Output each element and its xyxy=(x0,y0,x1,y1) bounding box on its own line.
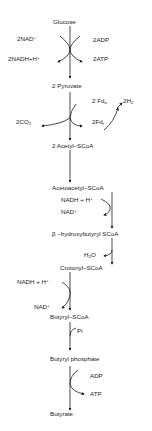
node-butyryl-phosphate: Butyryl phosphate xyxy=(50,355,100,362)
node-glucose: Glucose xyxy=(53,18,76,25)
cofactor-2fd-oxidized: 2 Fdo xyxy=(92,97,107,104)
cofactor-adp: ADP xyxy=(90,372,103,379)
cofactor-atp: ATP xyxy=(90,390,102,397)
cofactor-h2o: H2O xyxy=(84,251,96,258)
cofactor-2atp: 2ATP xyxy=(93,55,108,62)
node-acetyl-scoa: 2 Acetyl–SCoA xyxy=(52,142,93,149)
pathway-arrows xyxy=(0,0,152,431)
node-hydroxybutyryl-scoa: β –hydroxybutyryl SCoA xyxy=(52,230,119,237)
cofactor-nadh-h-plus-2: NADH + H+ xyxy=(17,278,49,285)
node-pyruvate: 2 Pyruvate xyxy=(52,82,82,89)
cofactor-2fd-reduced: 2Fdr xyxy=(92,118,104,125)
cofactor-2nadh: 2NADH+H+ xyxy=(8,55,40,62)
node-butyryl-scoa: Butyryl–SCoA xyxy=(50,313,89,320)
cofactor-2adp: 2ADP xyxy=(93,36,109,43)
cofactor-2nad-plus: 2NAD+ xyxy=(17,35,36,42)
cofactor-pi: Pi xyxy=(77,327,83,334)
cofactor-2co2: 2CO2 xyxy=(16,118,31,125)
cofactor-2h2: 2H2 xyxy=(123,97,133,104)
cofactor-nad-plus-2: NAD+ xyxy=(34,303,50,310)
cofactor-nad-plus-1: NAD+ xyxy=(61,208,77,215)
node-crotonyl-scoa: Crotonyl–SCoA xyxy=(60,264,103,271)
node-butyrate: Butyrate xyxy=(50,410,73,417)
cofactor-nadh-h-plus-1: NADH + H+ xyxy=(61,196,93,203)
node-acetoacetyl-scoa: Acetoacetyl–SCoA xyxy=(52,184,104,191)
